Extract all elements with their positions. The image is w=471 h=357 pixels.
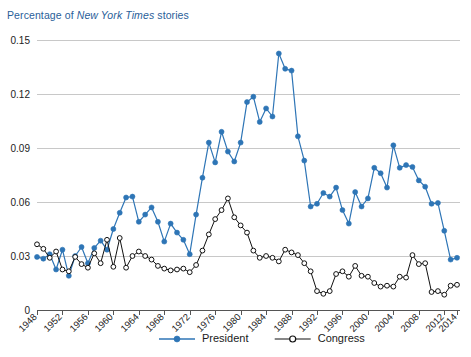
data-point xyxy=(187,252,192,257)
data-point xyxy=(54,267,59,272)
data-point xyxy=(41,246,46,251)
data-point xyxy=(60,267,65,272)
x-tick-label: 1952 xyxy=(41,311,64,334)
data-point xyxy=(251,248,256,253)
data-point xyxy=(302,261,307,266)
data-point xyxy=(143,254,148,259)
data-point xyxy=(308,204,313,209)
data-point xyxy=(327,289,332,294)
data-point xyxy=(435,200,440,205)
data-point xyxy=(257,119,262,124)
data-point xyxy=(289,68,294,73)
data-point xyxy=(111,264,116,269)
data-point xyxy=(105,237,110,242)
data-point xyxy=(130,194,135,199)
data-point xyxy=(346,221,351,226)
data-point xyxy=(423,184,428,189)
data-point xyxy=(448,283,453,288)
data-point xyxy=(54,249,59,254)
data-point xyxy=(385,185,390,190)
x-tick-label: 1964 xyxy=(118,311,141,334)
chart-legend: PresidentCongress xyxy=(159,332,365,344)
data-point xyxy=(365,196,370,201)
data-point xyxy=(353,264,358,269)
data-point xyxy=(455,282,460,287)
x-tick-label: 1948 xyxy=(16,311,39,334)
data-point xyxy=(302,158,307,163)
data-point xyxy=(194,212,199,217)
data-point xyxy=(245,230,250,235)
data-point xyxy=(404,275,409,280)
data-point xyxy=(391,143,396,148)
data-point xyxy=(378,284,383,289)
y-tick-label: 0.09 xyxy=(11,143,31,154)
x-tick-label: 1988 xyxy=(271,311,294,334)
x-tick-label: 1992 xyxy=(296,311,319,334)
data-point xyxy=(156,264,161,269)
data-point xyxy=(111,227,116,232)
data-point xyxy=(276,259,281,264)
data-point xyxy=(187,270,192,275)
data-point xyxy=(219,208,224,213)
data-point xyxy=(423,261,428,266)
data-point xyxy=(130,254,135,259)
data-point xyxy=(213,217,218,222)
data-point xyxy=(289,250,294,255)
x-tick-label: 1968 xyxy=(143,311,166,334)
data-point xyxy=(429,201,434,206)
data-point xyxy=(372,165,377,170)
series-congress xyxy=(35,196,460,297)
data-point xyxy=(410,253,415,258)
data-point xyxy=(283,66,288,71)
data-point xyxy=(149,205,154,210)
data-point xyxy=(124,265,129,270)
x-tick-label: 1984 xyxy=(245,311,268,334)
data-point xyxy=(238,140,243,145)
data-point xyxy=(41,256,46,261)
data-point xyxy=(124,195,129,200)
data-point xyxy=(321,291,326,296)
data-point xyxy=(98,261,103,266)
y-tick-label: 0.06 xyxy=(11,197,31,208)
x-tick-label: 2008 xyxy=(398,311,421,334)
data-point xyxy=(283,247,288,252)
legend-marker-president xyxy=(174,336,180,342)
data-point xyxy=(60,247,65,252)
data-point xyxy=(92,251,97,256)
data-point xyxy=(391,284,396,289)
data-point xyxy=(448,257,453,262)
data-point xyxy=(429,290,434,295)
data-point xyxy=(359,273,364,278)
data-point xyxy=(353,190,358,195)
y-tick-label: 0.15 xyxy=(11,35,31,46)
data-point xyxy=(200,248,205,253)
data-point xyxy=(410,164,415,169)
data-point xyxy=(442,292,447,297)
data-point xyxy=(455,255,460,260)
data-point xyxy=(149,257,154,262)
x-tick-label: 1996 xyxy=(321,311,344,334)
legend-marker-congress xyxy=(290,336,296,342)
data-point xyxy=(366,274,371,279)
data-point xyxy=(155,219,160,224)
series-line-congress xyxy=(37,198,457,294)
data-point xyxy=(442,228,447,233)
data-point xyxy=(232,159,237,164)
data-point xyxy=(359,204,364,209)
data-point xyxy=(35,242,40,247)
data-point xyxy=(327,194,332,199)
data-point xyxy=(295,134,300,139)
data-point xyxy=(346,274,351,279)
x-tick-label: 1976 xyxy=(194,311,217,334)
y-tick-label: 0.12 xyxy=(11,89,31,100)
data-point xyxy=(232,215,237,220)
chart-container: Percentage of New York Times stories 00.… xyxy=(0,0,471,357)
data-point xyxy=(206,140,211,145)
data-point xyxy=(92,245,97,250)
data-point xyxy=(143,212,148,217)
x-axis xyxy=(37,311,460,315)
y-axis-labels: 00.030.060.090.120.15 xyxy=(11,35,31,316)
data-point xyxy=(264,106,269,111)
data-point xyxy=(35,254,40,259)
data-point xyxy=(238,223,243,228)
